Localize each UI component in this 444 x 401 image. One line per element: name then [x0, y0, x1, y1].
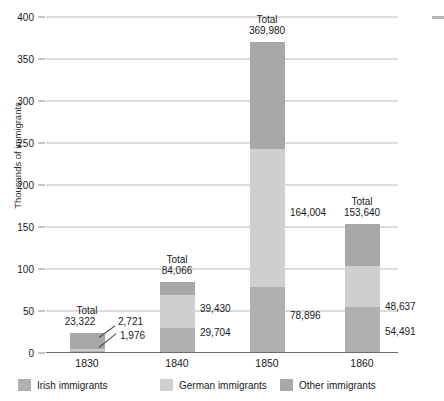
ytick-dash-50: [38, 311, 45, 312]
bar-1860-segment-german: [345, 266, 380, 307]
bar-1840-segment-german: [160, 295, 195, 328]
bar-1850-segment-other: [250, 42, 285, 149]
ytick-label-100: 100: [4, 264, 34, 275]
xtick-label-1860: 1860: [332, 357, 392, 369]
bar-1850[interactable]: [250, 42, 285, 353]
ytick-label-250: 250: [4, 138, 34, 149]
value-label-german-1860: 48,637: [385, 301, 416, 312]
total-word-1830: Total: [47, 305, 127, 316]
legend-label-irish: Irish immigrants: [37, 380, 108, 391]
legend-swatch-irish-icon: [18, 379, 31, 391]
ytick-dash-400: [38, 17, 45, 18]
gridline-400: [46, 17, 398, 18]
gridline-250: [46, 143, 398, 144]
ytick-dash-0: [38, 353, 45, 354]
ytick-label-0: 0: [4, 348, 34, 359]
ytick-dash-150: [38, 227, 45, 228]
ytick-label-400: 400: [4, 12, 34, 23]
bar-1850-segment-irish: [250, 287, 285, 353]
x-axis-line: [46, 352, 398, 353]
bar-1860[interactable]: [345, 224, 380, 353]
gridline-200: [46, 185, 398, 186]
xtick-label-1840: 1840: [147, 357, 207, 369]
legend-label-other: Other immigrants: [299, 380, 376, 391]
bar-1840[interactable]: [160, 282, 195, 353]
xtick-label-1850: 1850: [237, 357, 297, 369]
bar-1860-segment-irish: [345, 307, 380, 353]
ytick-dash-100: [38, 269, 45, 270]
ytick-label-50: 50: [4, 306, 34, 317]
bar-1850-segment-german: [250, 149, 285, 287]
value-label-german-1830: 1,976: [120, 330, 145, 341]
value-label-irish-1830: 2,721: [118, 316, 143, 327]
value-label-irish-1860: 54,491: [385, 326, 416, 337]
ytick-label-300: 300: [4, 96, 34, 107]
total-value-1850: 369,980: [227, 25, 307, 36]
total-value-1860: 153,640: [322, 207, 402, 218]
bar-1860-segment-other: [345, 224, 380, 266]
legend-swatch-german-icon: [160, 379, 173, 391]
gridline-400-right-stub: [432, 16, 444, 19]
ytick-dash-250: [38, 143, 45, 144]
legend-label-german: German immigrants: [179, 380, 267, 391]
value-label-irish-1850: 78,896: [290, 310, 321, 321]
ytick-dash-200: [38, 185, 45, 186]
ytick-label-150: 150: [4, 222, 34, 233]
total-word-1860: Total: [322, 196, 402, 207]
total-word-1850: Total: [227, 14, 307, 25]
ytick-dash-350: [38, 59, 45, 60]
value-label-irish-1840: 29,704: [200, 327, 231, 338]
legend-swatch-other-icon: [280, 379, 293, 391]
bar-1840-segment-other: [160, 282, 195, 295]
gridline-350: [46, 59, 398, 60]
xtick-label-1830: 1830: [57, 357, 117, 369]
ytick-dash-300: [38, 101, 45, 102]
bar-1840-segment-irish: [160, 328, 195, 353]
total-value-1840: 84,066: [137, 265, 217, 276]
value-label-german-1840: 39,430: [200, 303, 231, 314]
total-value-1830: 23,322: [40, 316, 120, 327]
immigration-stacked-bar-chart: Thousands of immigrants 400 350 300 250 …: [0, 0, 444, 401]
total-word-1840: Total: [137, 254, 217, 265]
ytick-label-200: 200: [4, 180, 34, 191]
ytick-label-350: 350: [4, 54, 34, 65]
chart-legend: Irish immigrants German immigrants Other…: [0, 378, 444, 398]
gridline-300: [46, 101, 398, 102]
value-label-german-1850: 164,004: [290, 207, 326, 218]
